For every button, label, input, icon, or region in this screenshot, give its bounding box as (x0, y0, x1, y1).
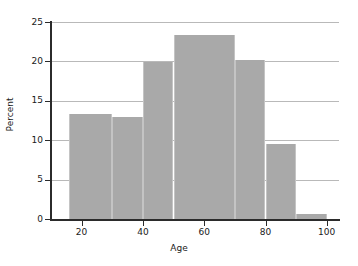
x-tick-mark-80 (266, 221, 267, 226)
gridline-y-25 (51, 22, 339, 23)
y-axis-title: Percent (6, 85, 15, 145)
histogram-figure: 0510152025 20406080100 Age Percent (0, 0, 358, 266)
x-tick-mark-100 (327, 221, 328, 226)
y-tick-label: 0 (3, 215, 43, 224)
y-tick-label: 20 (3, 57, 43, 66)
y-tick-mark-0 (45, 219, 50, 220)
x-tick-label: 80 (251, 228, 281, 237)
x-tick-mark-20 (82, 221, 83, 226)
x-tick-mark-60 (204, 221, 205, 226)
y-tick-label: 25 (3, 18, 43, 27)
y-tick-mark-25 (45, 22, 50, 23)
x-tick-label: 20 (67, 228, 97, 237)
x-tick-label: 60 (189, 228, 219, 237)
histogram-bar (69, 114, 112, 219)
histogram-bar (174, 35, 235, 219)
x-axis-title: Age (0, 244, 358, 253)
y-axis-line (50, 21, 52, 220)
y-tick-mark-5 (45, 180, 50, 181)
x-tick-label: 40 (128, 228, 158, 237)
histogram-bar (235, 60, 266, 219)
histogram-bar (112, 117, 143, 219)
x-axis-line (50, 219, 340, 221)
x-tick-label: 100 (312, 228, 342, 237)
histogram-bar (266, 144, 297, 219)
y-tick-mark-20 (45, 61, 50, 62)
y-tick-mark-15 (45, 101, 50, 102)
plot-area (51, 22, 339, 219)
y-tick-label: 5 (3, 175, 43, 184)
y-tick-mark-10 (45, 140, 50, 141)
histogram-bar (143, 62, 174, 219)
x-tick-mark-40 (143, 221, 144, 226)
